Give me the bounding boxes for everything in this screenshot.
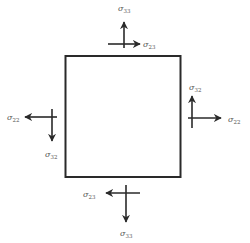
top-normal-label: σ33 [118, 4, 131, 14]
left-face-stresses: σ22 σ32 [7, 109, 57, 160]
left-shear-label: σ32 [45, 150, 57, 160]
bottom-face-stresses: σ23 σ33 [83, 185, 140, 239]
left-normal-label: σ22 [7, 113, 19, 123]
stress-element-square [66, 56, 181, 177]
right-normal-label: σ22 [228, 115, 240, 125]
top-face-stresses: σ33 σ23 [108, 4, 156, 50]
bottom-shear-label: σ23 [83, 190, 96, 200]
right-shear-label: σ32 [189, 83, 201, 93]
bottom-normal-label: σ33 [120, 229, 133, 239]
stress-element-diagram: σ33 σ23 σ22 σ32 σ32 σ22 σ23 σ33 [0, 0, 250, 243]
right-face-stresses: σ32 σ22 [188, 83, 240, 128]
top-shear-label: σ23 [143, 40, 156, 50]
